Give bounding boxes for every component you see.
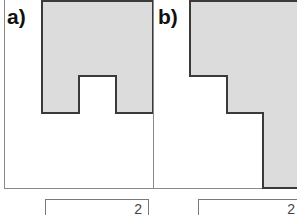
answer-box-b[interactable]: 2 xyxy=(198,199,297,215)
panel-a-label: a) xyxy=(7,6,26,27)
grid-cell xyxy=(226,38,264,77)
grid-cell xyxy=(79,38,117,77)
grid-cell xyxy=(153,113,191,152)
grid-cell xyxy=(116,113,154,152)
grid-cell xyxy=(190,75,228,114)
shape-a-outline-left xyxy=(41,0,43,113)
grid-cell xyxy=(41,150,79,189)
grid-cell xyxy=(116,150,154,189)
grid-cell xyxy=(4,150,42,189)
grid-cell xyxy=(41,113,79,152)
grid-cell xyxy=(79,150,117,189)
grid-cell xyxy=(153,38,191,77)
grid-cell xyxy=(153,75,191,114)
answer-unit-b: 2 xyxy=(287,202,295,215)
grid-cell xyxy=(226,113,264,152)
shape-a-outline-notch-right xyxy=(115,75,117,114)
grid-cell xyxy=(226,0,264,39)
shape-a-outline-bottom-left xyxy=(41,112,80,114)
shape-b-outline-step1-down xyxy=(226,75,228,114)
answer-box-a[interactable]: 2 xyxy=(45,199,149,215)
shape-a-outline-notch-top xyxy=(78,75,117,77)
grid-cell xyxy=(79,0,117,39)
grid-cell xyxy=(263,75,297,114)
shape-b-outline-step1 xyxy=(189,75,228,77)
grid-cell xyxy=(190,0,228,39)
shape-b-outline-top xyxy=(189,0,297,2)
grid-cell xyxy=(190,113,228,152)
grid-cell xyxy=(226,150,264,189)
grid-cell xyxy=(226,75,264,114)
grid-cell xyxy=(263,113,297,152)
grid-cell xyxy=(4,113,42,152)
panel-b-label: b) xyxy=(158,6,178,27)
grid-cell xyxy=(79,75,117,114)
grid-cell xyxy=(116,75,154,114)
grid-cell xyxy=(41,75,79,114)
grid-cell xyxy=(263,38,297,77)
grid-cell xyxy=(190,38,228,77)
shape-a-outline-top xyxy=(41,0,154,2)
grid-cell xyxy=(263,150,297,189)
shape-b-outline-step2-down xyxy=(262,112,264,189)
shape-b-outline-bottom xyxy=(262,187,297,189)
grid-cell xyxy=(190,150,228,189)
grid-cell xyxy=(41,38,79,77)
grid-cell xyxy=(41,0,79,39)
grid-cell xyxy=(4,38,42,77)
grid-cell xyxy=(116,38,154,77)
grid-cell xyxy=(4,75,42,114)
shape-a-outline-bottom-right xyxy=(115,112,154,114)
grid-cell xyxy=(263,0,297,39)
grid-cell xyxy=(116,0,154,39)
shape-a-outline-notch-left xyxy=(78,75,80,114)
answer-unit-a: 2 xyxy=(134,202,142,215)
grid-cell xyxy=(79,113,117,152)
panel-a: a) xyxy=(0,0,153,190)
grid-cell xyxy=(153,150,191,189)
panel-b: b) xyxy=(153,0,297,190)
shape-b-outline-left xyxy=(189,0,191,77)
shape-b-outline-step2 xyxy=(226,112,264,114)
